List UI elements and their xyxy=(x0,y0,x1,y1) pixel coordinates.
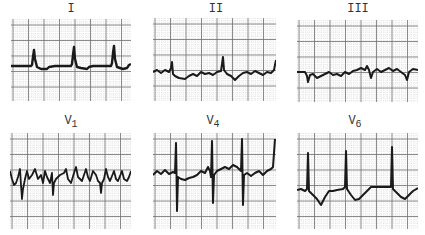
ecg-strip-lead-V6 xyxy=(297,133,418,229)
lead-label-I: I xyxy=(51,2,91,16)
lead-label-V6: V6 xyxy=(335,114,375,130)
lead-label-III: III xyxy=(338,2,378,16)
grid xyxy=(297,20,418,102)
ecg-strip-lead-III xyxy=(297,20,418,102)
ecg-strip-lead-II xyxy=(153,18,276,101)
ecg-strip-lead-V4 xyxy=(153,133,276,229)
ecg-strip-lead-V1 xyxy=(10,133,131,229)
grid xyxy=(297,133,418,229)
ecg-trace xyxy=(153,57,276,80)
grid xyxy=(153,18,276,101)
lead-label-V4: V4 xyxy=(193,114,233,130)
lead-label-V1: V1 xyxy=(51,114,91,130)
ecg-strip-lead-I xyxy=(11,19,131,101)
lead-label-II: II xyxy=(196,2,236,16)
